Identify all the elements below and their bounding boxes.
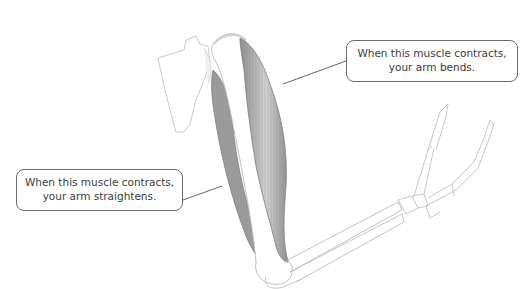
triceps-callout: When this muscle contracts, your arm str… bbox=[16, 169, 183, 211]
triceps-leader-line bbox=[183, 186, 222, 200]
hand-bones bbox=[398, 104, 494, 218]
biceps-callout-line2: your arm bends. bbox=[353, 60, 511, 74]
biceps-callout-line1: When this muscle contracts, bbox=[353, 46, 511, 60]
scapula-bone bbox=[158, 36, 210, 132]
biceps-leader-line bbox=[283, 61, 346, 84]
triceps-callout-line2: your arm straightens. bbox=[23, 189, 176, 203]
biceps-callout: When this muscle contracts, your arm ben… bbox=[346, 40, 518, 82]
triceps-callout-line1: When this muscle contracts, bbox=[23, 175, 176, 189]
